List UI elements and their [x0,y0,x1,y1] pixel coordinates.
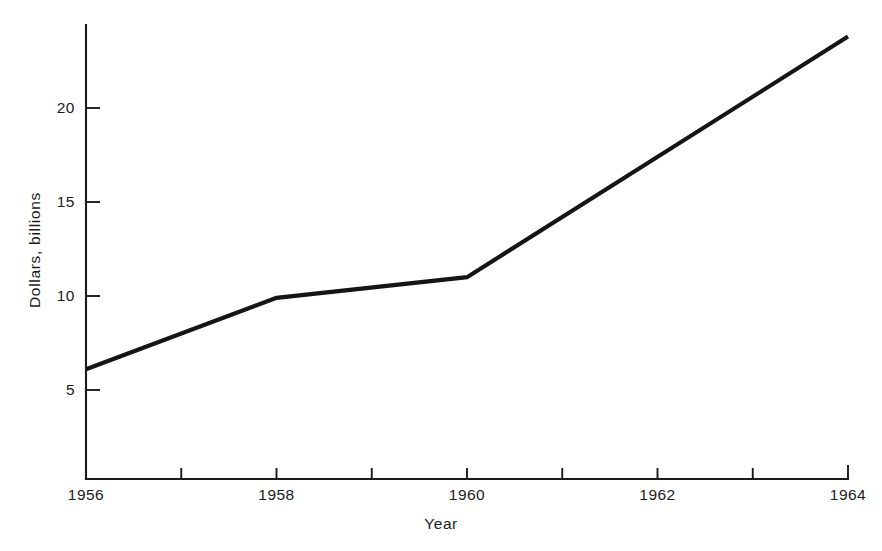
x-axis-title: Year [0,516,882,532]
x-tick-marks [86,465,848,479]
y-tick-label: 10 [57,288,75,304]
x-tick-label: 1960 [449,487,485,503]
data-series-line [86,37,848,370]
x-tick-label: 1958 [258,487,294,503]
x-tick-label: 1962 [639,487,675,503]
x-tick-label: 1964 [830,487,866,503]
chart-figure: 5101520 19561958196019621964 Year Dollar… [0,0,882,551]
line-chart-plot [0,0,882,551]
y-axis-title: Dollars, billions [27,192,43,308]
x-tick-label: 1956 [68,487,104,503]
y-tick-label: 15 [57,194,75,210]
y-axis-title-wrapper: Dollars, billions [22,150,48,350]
y-tick-marks [86,108,100,390]
y-tick-label: 5 [66,382,75,398]
y-tick-label: 20 [57,100,75,116]
